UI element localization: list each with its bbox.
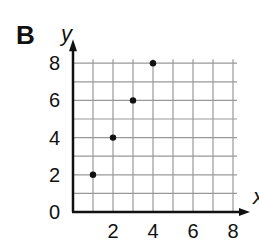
y-tick-label: 6	[49, 89, 60, 111]
x-axis-title: x	[252, 184, 259, 209]
y-tick-label: 4	[49, 127, 60, 149]
scatter-chart: 246802468xy	[0, 0, 259, 252]
x-tick-label: 6	[187, 220, 198, 242]
y-axis-title: y	[59, 21, 74, 46]
x-tick-label: 4	[147, 220, 158, 242]
data-point	[150, 60, 156, 66]
x-tick-label: 2	[107, 220, 118, 242]
data-point	[110, 134, 116, 140]
y-tick-label: 2	[49, 164, 60, 186]
y-tick-label: 8	[49, 52, 60, 74]
x-tick-label: 8	[227, 220, 238, 242]
x-axis-arrow-icon	[239, 208, 250, 216]
data-point	[90, 172, 96, 178]
y-tick-label: 0	[49, 201, 60, 223]
data-point	[130, 97, 136, 103]
